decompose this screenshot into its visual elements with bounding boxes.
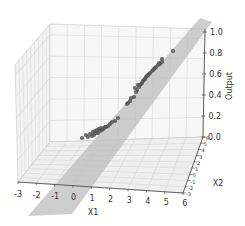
x-tick-label: 4 bbox=[145, 197, 150, 206]
x-axis-label: X1 bbox=[88, 208, 99, 217]
y-tick-label: 3 bbox=[199, 154, 202, 160]
x-tick-label: -3 bbox=[14, 190, 22, 199]
data-point bbox=[116, 116, 120, 120]
x-tick-label: -2 bbox=[33, 191, 41, 200]
x-tick-label: 5 bbox=[164, 198, 169, 207]
data-point bbox=[145, 74, 149, 78]
data-point bbox=[90, 134, 94, 138]
z-tick-label: 0.4 bbox=[209, 91, 222, 100]
y-tick-label: -2 bbox=[188, 185, 193, 191]
y-tick-label: -3 bbox=[186, 191, 191, 197]
data-point bbox=[139, 82, 143, 86]
data-point bbox=[113, 119, 117, 123]
z-tick-label: 1.0 bbox=[210, 28, 223, 37]
y-tick-label: -1 bbox=[190, 179, 195, 185]
data-point bbox=[80, 136, 84, 140]
x-tick-label: 6 bbox=[182, 199, 187, 208]
data-point bbox=[142, 78, 146, 82]
y-tick-label: 5 bbox=[204, 141, 207, 147]
z-axis-label: Output bbox=[225, 72, 234, 100]
x-tick-label: 2 bbox=[108, 195, 113, 204]
data-point bbox=[94, 131, 98, 135]
chart-figure: 0.00.20.40.60.81.0 Output -3-2-10123456 … bbox=[0, 0, 245, 226]
data-point bbox=[103, 125, 107, 129]
y-tick-label: 1 bbox=[195, 166, 198, 172]
x-tick-label: -1 bbox=[51, 192, 59, 201]
data-point bbox=[86, 135, 90, 139]
data-point bbox=[133, 86, 137, 90]
plot-3d: 0.00.20.40.60.81.0 Output -3-2-10123456 … bbox=[0, 0, 245, 226]
y-axis-label: X2 bbox=[213, 179, 224, 188]
x-tick-label: 0 bbox=[71, 193, 76, 202]
y-tick-label: 2 bbox=[197, 160, 200, 166]
y-tick-label: 0 bbox=[193, 172, 196, 178]
y-tick-label: 4 bbox=[202, 147, 205, 153]
data-point bbox=[129, 96, 133, 100]
data-point bbox=[125, 102, 129, 106]
z-tick-label: 0.2 bbox=[208, 112, 221, 121]
data-point bbox=[160, 57, 164, 61]
z-tick-label: 0.0 bbox=[208, 133, 221, 142]
z-tick-label: 0.6 bbox=[209, 70, 222, 79]
x-tick-label: 3 bbox=[127, 196, 132, 205]
x-tick-label: 1 bbox=[90, 194, 95, 203]
z-tick-label: 0.8 bbox=[210, 49, 223, 58]
data-point bbox=[157, 61, 161, 65]
data-point bbox=[171, 49, 175, 53]
y-tick-label: 6 bbox=[206, 135, 209, 141]
data-point bbox=[151, 68, 155, 72]
